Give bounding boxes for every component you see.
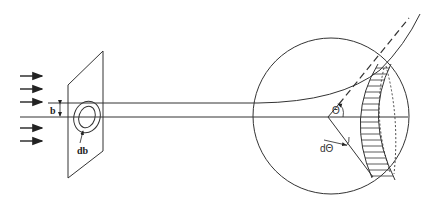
label-db: db [77,145,89,156]
trajectory-line [48,14,420,103]
label-dtheta: dΘ [320,143,334,154]
db-pointer-icon [80,131,83,143]
cap-dashed-inner [379,68,390,172]
label-b: b [50,105,56,116]
lower-radius-line [328,117,373,177]
scattering-direction-line [339,18,409,104]
sphere [253,38,409,194]
label-theta: Θ [332,105,340,116]
target-plate [68,51,103,178]
cap-dashed-outer [386,66,396,174]
scattering-diagram: b db Θ dΘ [0,0,426,204]
incident-arrows [20,76,42,141]
